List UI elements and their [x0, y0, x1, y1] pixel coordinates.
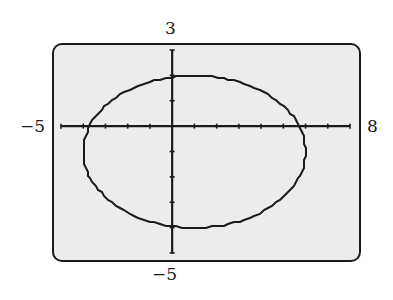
- graph-plot: [0, 0, 393, 300]
- ellipse-curve: [84, 76, 306, 228]
